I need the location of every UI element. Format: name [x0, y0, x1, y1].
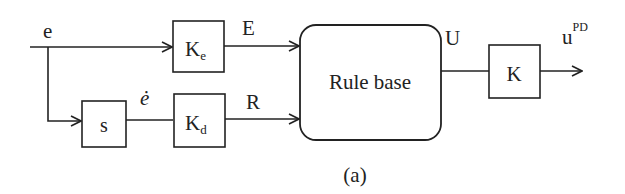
- output-signal-label: uPD: [562, 20, 588, 49]
- signal-E-label: E: [242, 16, 255, 40]
- signal-U-label: U: [445, 26, 460, 50]
- rule-base-label: Rule base: [329, 70, 411, 94]
- input-signal-label: e: [43, 19, 52, 43]
- pd-fuzzy-controller-diagram: e s ė Ke Kd E R Rule base U K uPD (a): [0, 0, 625, 194]
- branch-line: [48, 47, 81, 121]
- derivative-block-label: s: [100, 114, 108, 136]
- signal-R-label: R: [246, 90, 260, 114]
- output-gain-label: K: [506, 62, 521, 86]
- gain-e-label: Ke: [185, 37, 206, 63]
- derivative-signal-label: ė: [140, 86, 149, 110]
- caption: (a): [343, 163, 366, 187]
- gain-d-label: Kd: [185, 111, 207, 137]
